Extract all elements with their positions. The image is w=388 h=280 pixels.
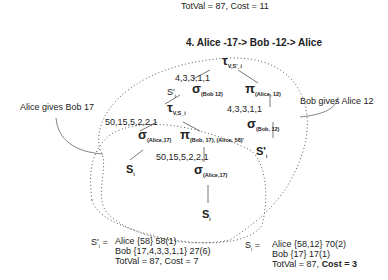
inner-edge-label: 50,15,5,2,2,1 (105, 117, 158, 127)
top-summary: TotVal = 87, Cost = 11 (181, 1, 269, 11)
outer-tau-node: τV,S'_i (222, 56, 242, 71)
inner-pi-edge-label: 50,15,5,2,2,1 (156, 152, 209, 162)
outer-sigma2-node: σ(Bob, 12) (247, 119, 279, 134)
outer-leaf: S'i (256, 146, 267, 161)
annotation-right: Bob gives Alice 12 (300, 96, 374, 106)
inner-pi-node: π(Bob, 17), (Alice, 58)' (180, 130, 244, 145)
outer-s-prime-label: S'i (167, 87, 176, 101)
result-left-line-2: Bob {17,4,3,3,1,1} 27(6) (115, 246, 211, 256)
inner-leaf-bottom: Si (202, 209, 211, 224)
result-left-line-1: Alice {58} 58(1) (115, 236, 177, 246)
inner-tau-node: τV,S_i (167, 103, 186, 118)
outer-sigma-node: σ(Bob 12) (192, 84, 223, 99)
inner-leaf-left: Si (126, 164, 135, 179)
outer-pi-edge-label: 4,3,3,1,1 (227, 104, 262, 114)
result-left-label: S'i = (91, 237, 108, 251)
outer-pi-node: π(Alice, 12) (245, 84, 281, 99)
inner-sigma-node: σ(Alice,17) (138, 130, 171, 145)
result-right-line-3: TotVal = 87, Cost = 3 (272, 259, 357, 269)
result-right-line-1: Alice {58,12} 70(2) (272, 239, 346, 249)
inner-sigma2-node: σ(Alice,17) (194, 165, 227, 180)
result-right-label: Si = (245, 240, 260, 254)
result-left-line-3: TotVal = 87, Cost = 7 (115, 256, 198, 266)
page-title: 4. Alice -17-> Bob -12-> Alice (186, 38, 322, 48)
annotation-left: Alice gives Bob 17 (20, 102, 94, 112)
result-right-line-2: Bob {17} 17(1) (272, 249, 330, 259)
